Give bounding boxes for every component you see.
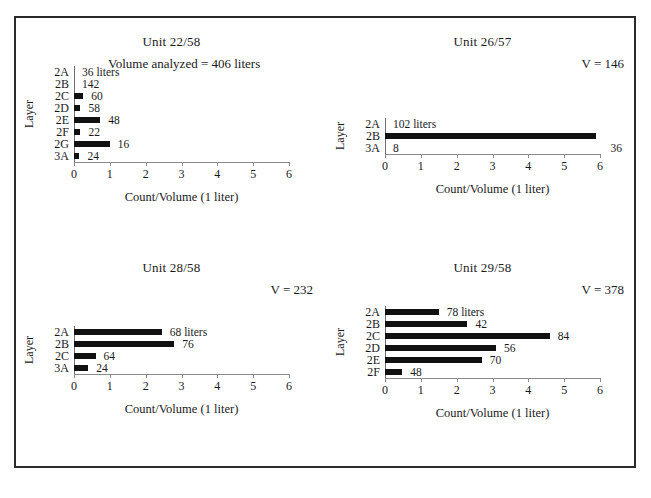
y-axis-title: Layer — [23, 100, 38, 128]
x-axis-tick — [421, 154, 422, 158]
x-axis-tick — [528, 378, 529, 382]
x-axis-tick-label: 4 — [214, 167, 220, 182]
bar-row: 22 — [74, 126, 289, 138]
bar-row: 42 — [385, 318, 600, 330]
bars-container: 78 liters4284567048 — [385, 306, 600, 378]
bar — [74, 153, 79, 159]
bar — [74, 365, 88, 371]
bar — [385, 345, 496, 351]
bar-row: 64 — [74, 350, 289, 362]
bar-value-label: 22 — [88, 126, 100, 138]
x-axis-tick — [182, 374, 183, 378]
x-axis-tick — [289, 162, 290, 166]
bar-value-label: 24 — [96, 362, 108, 374]
chart-panel-unit-29-58: Unit 29/58 V = 378 Layer 2A2B2C2D2E2F 78… — [327, 244, 638, 470]
bar-right-edge-label: 36 — [611, 142, 623, 154]
bar-value-label: 78 liters — [447, 306, 484, 318]
bar — [74, 105, 80, 111]
x-axis-tick — [600, 154, 601, 158]
x-axis-title: Count/Volume (1 liter) — [74, 402, 289, 417]
bar-value-label: 84 — [558, 330, 570, 342]
bar-row: 16 — [74, 138, 289, 150]
panel-note-volume: V = 146 — [582, 56, 625, 72]
bar — [385, 133, 596, 139]
y-axis-category-label: 3A — [54, 362, 69, 374]
x-axis-ticks: 0123456 — [74, 162, 289, 182]
x-axis-tick-label: 0 — [71, 167, 77, 182]
bar — [74, 341, 174, 347]
x-axis-tick-label: 1 — [107, 379, 113, 394]
panel-title: Unit 22/58 — [16, 34, 327, 50]
y-axis-category-labels: 2A2B3A — [365, 118, 380, 154]
x-axis-tick-label: 3 — [179, 167, 185, 182]
bar-row: 76 — [74, 338, 289, 350]
panel-title: Unit 29/58 — [327, 260, 638, 276]
bar — [385, 321, 467, 327]
x-axis-tick-label: 2 — [454, 159, 460, 174]
x-axis-tick-label: 6 — [286, 379, 292, 394]
bar-value-label: 16 — [118, 138, 130, 150]
x-axis-ticks: 0123456 — [385, 154, 600, 174]
panel-note-volume: V = 378 — [582, 282, 625, 298]
y-axis-category-labels: 2A2B2C2D2E2F2G3A — [54, 66, 69, 162]
x-axis-tick — [110, 374, 111, 378]
bar-value-label: 58 — [88, 102, 100, 114]
x-axis-tick — [289, 374, 290, 378]
plot-area: Layer 2A2B2C2D2E2F2G3A 36 liters14260584… — [74, 66, 289, 162]
y-axis-category-labels: 2A2B2C2D2E2F — [365, 306, 380, 378]
bar-value-label: 36 liters — [82, 66, 119, 78]
bar-value-label: 56 — [504, 342, 516, 354]
x-axis-tick-label: 4 — [525, 159, 531, 174]
x-axis-tick — [457, 154, 458, 158]
bar-value-label: 8 — [393, 142, 399, 154]
x-axis-tick — [493, 378, 494, 382]
x-axis-tick — [146, 374, 147, 378]
chart-panel-unit-28-58: Unit 28/58 V = 232 Layer 2A2B2C3A 68 lit… — [16, 244, 327, 470]
x-axis-tick — [457, 378, 458, 382]
x-axis-tick-label: 0 — [71, 379, 77, 394]
x-axis-tick-label: 2 — [143, 167, 149, 182]
bar — [74, 329, 162, 335]
y-axis-category-label: 3A — [54, 150, 69, 162]
bar-row: 102 liters — [385, 118, 600, 130]
bar-row: 24 — [74, 150, 289, 162]
x-axis-tick — [74, 374, 75, 378]
x-axis-tick — [253, 162, 254, 166]
x-axis-tick — [182, 162, 183, 166]
bar — [385, 309, 439, 315]
bar-value-label: 142 — [82, 78, 99, 90]
bar-row: 836 — [385, 142, 600, 154]
bar-value-label: 60 — [91, 90, 103, 102]
bar-value-label: 64 — [104, 350, 116, 362]
x-axis-tick-label: 5 — [561, 383, 567, 398]
x-axis-tick-label: 3 — [490, 159, 496, 174]
chart-panel-unit-22-58: Unit 22/58 Volume analyzed = 406 liters … — [16, 18, 327, 244]
plot-area: Layer 2A2B3A 102 liters836 0123456 Count… — [385, 118, 600, 154]
x-axis-tick-label: 5 — [250, 167, 256, 182]
x-axis-tick — [421, 378, 422, 382]
x-axis-tick-label: 6 — [597, 159, 603, 174]
bars-container: 68 liters766424 — [74, 326, 289, 374]
x-axis-tick — [146, 162, 147, 166]
bar-row: 56 — [385, 342, 600, 354]
x-axis-tick-label: 5 — [250, 379, 256, 394]
x-axis-tick-label: 3 — [179, 379, 185, 394]
x-axis-tick-label: 6 — [597, 383, 603, 398]
bar-row: 84 — [385, 330, 600, 342]
bar-row: 78 liters — [385, 306, 600, 318]
x-axis-tick — [217, 374, 218, 378]
x-axis-tick — [564, 378, 565, 382]
x-axis-tick — [110, 162, 111, 166]
x-axis-tick-label: 5 — [561, 159, 567, 174]
y-axis-title: Layer — [23, 336, 38, 364]
x-axis-tick — [74, 162, 75, 166]
bar-row: 48 — [385, 366, 600, 378]
bar — [385, 357, 482, 363]
x-axis-tick-label: 1 — [107, 167, 113, 182]
y-axis-title: Layer — [334, 328, 349, 356]
plot-area: Layer 2A2B2C3A 68 liters766424 0123456 C… — [74, 326, 289, 374]
y-axis-category-label: 2F — [365, 366, 380, 378]
bar-row: 60 — [74, 90, 289, 102]
x-axis-tick — [253, 374, 254, 378]
bar-row: 68 liters — [74, 326, 289, 338]
